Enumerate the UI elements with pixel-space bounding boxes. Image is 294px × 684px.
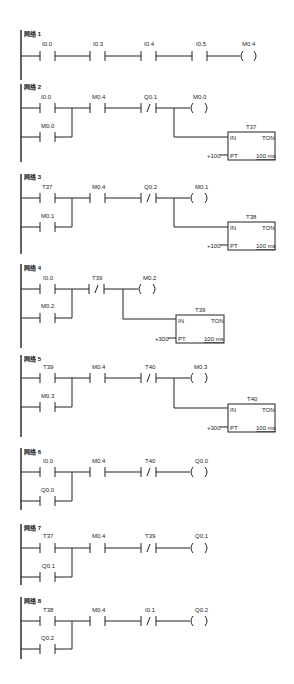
- contact-label: M0.4: [92, 607, 106, 613]
- contact-no[interactable]: [40, 284, 55, 294]
- contact-no[interactable]: [40, 222, 55, 232]
- contact-label: T40: [145, 458, 156, 464]
- contact-label: T39: [92, 275, 103, 281]
- contact-label: I0.1: [145, 607, 156, 613]
- timer-name: T39: [195, 307, 206, 313]
- contact-nc[interactable]: [141, 543, 156, 553]
- contact-label: T39: [145, 533, 156, 539]
- timer-type: TON: [262, 407, 275, 413]
- network-title: 网络 8: [24, 597, 42, 605]
- coil[interactable]: [191, 467, 207, 477]
- timer-in-label: IN: [230, 407, 236, 413]
- timer-name: T40: [247, 396, 258, 402]
- network-6: 网络 6 I0.0 Q0.0 M0.4 T40 Q0.0: [21, 448, 209, 510]
- contact-no[interactable]: [40, 572, 55, 582]
- contact-no[interactable]: [40, 313, 55, 323]
- contact-label: I0.3: [93, 41, 104, 47]
- contact-label: I0.0: [43, 458, 54, 464]
- network-4: 网络 4 I0.0 M0.2 T39 M0.2 T39 IN TON PT +3…: [21, 264, 224, 348]
- coil-label: M0.1: [195, 184, 209, 190]
- network-3: 网络 3 T37 M0.1 M0.4 Q0.2 M0.1 T38 IN TON …: [21, 173, 276, 254]
- network-title: 网络 4: [24, 264, 42, 272]
- coil-label: M0.4: [242, 41, 256, 47]
- coil[interactable]: [191, 373, 207, 383]
- contact-no[interactable]: [90, 373, 105, 383]
- contact-label: Q0.0: [41, 487, 55, 493]
- contact-label: I0.0: [43, 275, 54, 281]
- contact-no[interactable]: [40, 402, 55, 412]
- coil-label: M0.3: [194, 364, 208, 370]
- contact-label: M0.3: [41, 393, 55, 399]
- coil[interactable]: [191, 193, 207, 203]
- coil[interactable]: [241, 51, 256, 61]
- contact-no[interactable]: [40, 193, 55, 203]
- contact-no[interactable]: [40, 132, 55, 142]
- timer-type: TON: [262, 135, 275, 141]
- timer-in-label: IN: [230, 225, 236, 231]
- coil-label: Q0.1: [195, 533, 209, 539]
- timer-base: 100 ms: [256, 243, 276, 249]
- network-1: 网络 1 I0.0 I0.3 I0.4 I0.5 M0.4: [21, 30, 256, 80]
- timer-preset: +100: [207, 243, 221, 249]
- contact-nc[interactable]: [141, 616, 156, 626]
- contact-nc[interactable]: [141, 193, 156, 203]
- network-title: 网络 3: [24, 173, 42, 181]
- timer-base: 100 ms: [256, 153, 276, 159]
- coil[interactable]: [139, 284, 155, 294]
- contact-no[interactable]: [141, 51, 156, 61]
- contact-label: I0.0: [42, 41, 53, 47]
- contact-label: T40: [145, 364, 156, 370]
- contact-label: Q0.1: [144, 94, 158, 100]
- contact-nc[interactable]: [89, 284, 104, 294]
- coil-label: Q0.2: [195, 607, 209, 613]
- contact-label: T37: [43, 533, 54, 539]
- contact-no[interactable]: [90, 193, 105, 203]
- coil[interactable]: [191, 543, 207, 553]
- coil-label: M0.2: [143, 275, 157, 281]
- contact-no[interactable]: [90, 543, 105, 553]
- contact-label: M0.1: [41, 213, 55, 219]
- contact-label: M0.2: [41, 303, 55, 309]
- coil-label: Q0.0: [195, 458, 209, 464]
- timer-pt-label: PT: [230, 153, 238, 159]
- contact-no[interactable]: [192, 51, 207, 61]
- timer-type: TON: [211, 318, 224, 324]
- network-5: 网络 5 T39 M0.3 M0.4 T40 M0.3 T40 IN TON P…: [21, 355, 276, 437]
- contact-label: I0.0: [41, 94, 52, 100]
- network-7: 网络 7 T37 Q0.1 M0.4 T39 Q0.1: [21, 524, 209, 585]
- timer-preset: +100: [207, 153, 221, 159]
- timer-in-label: IN: [178, 318, 184, 324]
- contact-label: M0.4: [92, 94, 106, 100]
- contact-label: M0.4: [92, 184, 106, 190]
- contact-nc[interactable]: [141, 467, 156, 477]
- contact-label: I0.4: [144, 41, 155, 47]
- contact-no[interactable]: [40, 467, 55, 477]
- contact-nc[interactable]: [141, 103, 156, 113]
- coil[interactable]: [191, 103, 207, 113]
- timer-in-label: IN: [230, 135, 236, 141]
- contact-nc[interactable]: [141, 373, 156, 383]
- contact-no[interactable]: [40, 644, 55, 654]
- contact-no[interactable]: [40, 51, 55, 61]
- contact-no[interactable]: [90, 467, 105, 477]
- network-title: 网络 1: [24, 30, 42, 38]
- contact-no[interactable]: [40, 103, 55, 113]
- contact-label: Q0.2: [144, 184, 158, 190]
- contact-label: T39: [43, 364, 54, 370]
- network-title: 网络 6: [24, 448, 42, 456]
- timer-pt-label: PT: [178, 336, 186, 342]
- contact-no[interactable]: [90, 103, 105, 113]
- coil[interactable]: [191, 616, 207, 626]
- contact-no[interactable]: [90, 616, 105, 626]
- timer-name: T37: [246, 124, 257, 130]
- contact-no[interactable]: [40, 616, 55, 626]
- network-2: 网络 2 I0.0 M0.0 M0.4 Q0.1 M0.0 T37 IN TON…: [21, 83, 276, 162]
- contact-no[interactable]: [40, 373, 55, 383]
- ladder-diagram: 网络 1 I0.0 I0.3 I0.4 I0.5 M0.4 网络 2 I0.0 …: [0, 0, 294, 684]
- contact-no[interactable]: [40, 543, 55, 553]
- timer-name: T38: [246, 214, 257, 220]
- timer-base: 100 ms: [204, 336, 224, 342]
- contact-no[interactable]: [40, 496, 55, 506]
- contact-no[interactable]: [90, 51, 105, 61]
- contact-label: M0.4: [92, 533, 106, 539]
